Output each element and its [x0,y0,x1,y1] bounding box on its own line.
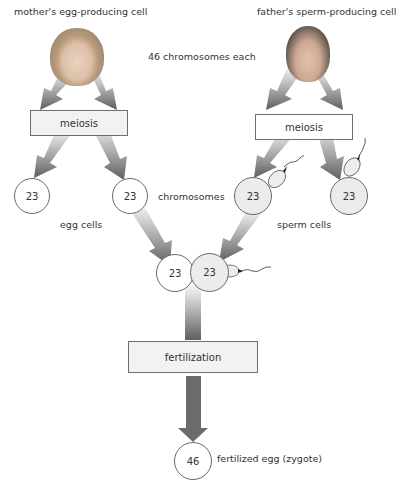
fertilization-label: fertilization [165,352,222,363]
mother-face-image [50,28,104,86]
egg-cells-label: egg cells [60,219,102,230]
arrow-to-zygote [178,376,208,442]
meiosis-label: meiosis [60,118,98,129]
egg-cell-2: 23 [112,178,148,214]
zygote-label: fertilized egg (zygote) [217,453,322,464]
chromosomes-each-label: 46 chromosomes each [148,51,256,62]
meiosis-box-mother: meiosis [30,110,128,136]
meiosis-label: meiosis [285,122,323,133]
chromosome-count: 23 [247,191,260,202]
meiosis-box-father: meiosis [255,114,353,140]
chromosome-count: 23 [26,191,39,202]
chromosome-count: 23 [169,268,182,279]
fertilization-box: fertilization [128,341,258,373]
fusion-sperm-cell: 23 [190,253,229,292]
chromosome-count: 23 [343,191,356,202]
arrow-to-fertilization [185,285,201,340]
mother-label: mother's egg-producing cell [14,6,147,17]
sperm-cell-2: 23 [330,177,368,215]
father-label: father's sperm-producing cell [257,6,396,17]
sperm-cell-1: 23 [234,177,272,215]
chromosomes-label: chromosomes [158,191,225,202]
zygote-cell: 46 [174,442,212,480]
fusion-egg-cell: 23 [156,254,194,292]
father-face-image [286,26,330,82]
chromosome-count: 46 [187,456,200,467]
chromosome-count: 23 [203,267,216,278]
egg-cell-1: 23 [14,178,50,214]
chromosome-count: 23 [124,191,137,202]
sperm-cells-label: sperm cells [277,219,331,230]
